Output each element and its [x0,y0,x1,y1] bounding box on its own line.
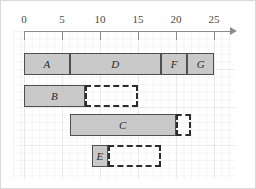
x-axis-line [24,31,231,32]
slack-bar-row-2-1[interactable] [85,85,138,107]
task-bar-label-g: G [197,59,205,70]
task-bar-c[interactable]: C [70,114,176,136]
x-tick-label-15: 15 [133,13,144,25]
task-bar-g[interactable]: G [187,53,214,75]
task-bar-b[interactable]: B [24,85,85,107]
x-tick-mark-5 [62,31,63,40]
x-tick-label-20: 20 [171,13,182,25]
task-bar-label-c: C [119,120,126,131]
x-tick-label-5: 5 [59,13,65,25]
x-tick-mark-15 [138,31,139,40]
task-bar-label-a: A [43,59,50,70]
x-tick-mark-25 [214,31,215,40]
x-tick-mark-20 [176,31,177,40]
task-bar-e[interactable]: E [92,145,107,167]
task-bar-d[interactable]: D [70,53,161,75]
x-tick-mark-0 [24,31,25,40]
slack-bar-row-3-1[interactable] [176,114,191,136]
x-tick-label-10: 10 [95,13,106,25]
x-tick-label-0: 0 [21,13,27,25]
task-bar-label-f: F [171,59,178,70]
task-bar-label-b: B [51,91,58,102]
x-axis-arrow-icon [230,27,237,35]
gantt-chart-figure: 0510152025 ADFGBCE [0,0,256,189]
x-tick-mark-10 [100,31,101,40]
slack-bar-row-4-1[interactable] [108,145,161,167]
task-bar-a[interactable]: A [24,53,70,75]
task-bar-label-d: D [111,59,119,70]
task-bar-label-e: E [97,151,104,162]
task-bar-f[interactable]: F [161,53,188,75]
x-tick-label-25: 25 [209,13,220,25]
